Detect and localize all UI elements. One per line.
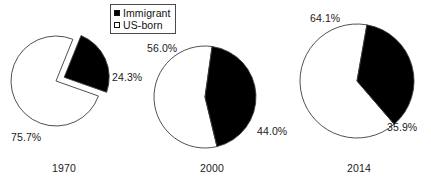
legend-label-immigrant: Immigrant	[123, 7, 171, 19]
empty-square-icon	[114, 22, 120, 28]
legend-item-usborn: US-born	[114, 19, 171, 31]
category-label-2000: 2000	[184, 162, 240, 174]
data-label-2014-usborn: 64.1%	[310, 12, 340, 24]
filled-square-icon	[114, 10, 120, 16]
legend-item-immigrant: Immigrant	[114, 7, 171, 19]
legend-label-usborn: US-born	[123, 19, 163, 31]
pie-1970-slices	[11, 36, 109, 126]
category-label-1970: 1970	[36, 162, 92, 174]
category-label-2014: 2014	[331, 162, 387, 174]
pie-chart-2000	[145, 40, 295, 160]
data-label-1970-usborn: 75.7%	[11, 131, 41, 143]
data-label-2000-immigrant: 44.0%	[257, 125, 287, 137]
data-label-1970-immigrant: 24.3%	[112, 71, 142, 83]
pie-2000-slices	[154, 46, 256, 148]
data-label-2000-usborn: 56.0%	[147, 42, 177, 54]
data-label-2014-immigrant: 35.9%	[387, 121, 417, 133]
pie-chart-figure: 24.3% 75.7% 56.0% 44.0% 64.1% 35.9% 1970…	[0, 0, 431, 189]
chart-legend: Immigrant US-born	[110, 4, 176, 34]
